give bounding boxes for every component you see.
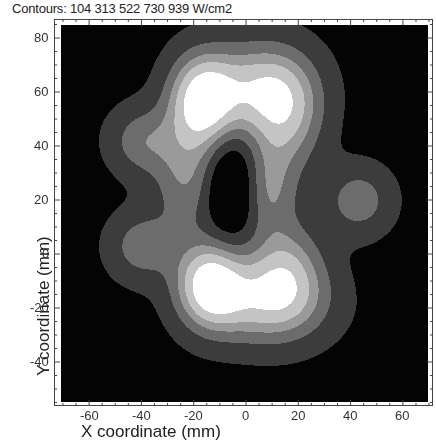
axes-ticks — [0, 0, 436, 446]
x-tick-label: 40 — [343, 408, 357, 423]
x-tick-label: 0 — [242, 408, 249, 423]
x-axis-label: X coordinate (mm) — [81, 422, 221, 442]
x-tick-label: 60 — [395, 408, 409, 423]
y-axis-label: Y coordinate (mm) — [34, 206, 54, 406]
x-tick-label: -60 — [80, 408, 99, 423]
x-tick-label: 20 — [291, 408, 305, 423]
y-tick-label: 80 — [34, 30, 48, 45]
x-tick-label: -40 — [132, 408, 151, 423]
x-tick-label: -20 — [184, 408, 203, 423]
y-tick-label: 40 — [34, 138, 48, 153]
y-tick-label: 60 — [34, 84, 48, 99]
y-tick-label: 20 — [34, 192, 48, 207]
